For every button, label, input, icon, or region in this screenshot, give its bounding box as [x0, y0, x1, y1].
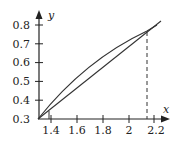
x-tick-label: 1.8	[94, 124, 112, 137]
straight-line-series	[38, 21, 161, 119]
y-axis-label: y	[47, 9, 55, 22]
x-tick-label: 2	[126, 124, 133, 137]
y-axis-arrow-icon	[36, 10, 43, 19]
x-tick-label: 1.4	[42, 124, 60, 137]
y-tick-label: 0.6	[13, 56, 31, 69]
chart: 1.4 1.6 1.8 2 2.2 0.3 0.4 0.5 0.6 0.7 0.…	[0, 0, 174, 144]
y-tick-label: 0.7	[13, 38, 31, 51]
y-tick-label: 0.4	[13, 94, 31, 107]
x-axis-label: x	[163, 103, 170, 116]
y-tick-label: 0.8	[13, 19, 31, 32]
x-axis-arrow-icon	[161, 116, 170, 123]
y-tick-label: 0.5	[13, 75, 31, 88]
x-tick-label: 2.2	[147, 124, 165, 137]
y-tick-label: 0.3	[13, 113, 31, 126]
x-tick-label: 1.6	[68, 124, 86, 137]
